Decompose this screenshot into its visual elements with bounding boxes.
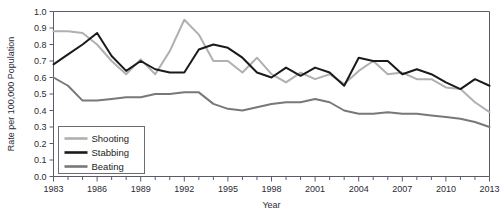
x-axis-ticks: 1983198619891992199519982001200420072010…: [43, 177, 499, 194]
y-axis-ticks: 0.00.10.20.30.40.50.60.70.80.91.0: [34, 7, 54, 182]
data-series-group: [54, 20, 490, 127]
y-tick-label: 0.0: [34, 172, 47, 182]
x-axis-title: Year: [262, 200, 280, 210]
legend-label-beating: Beating: [92, 161, 124, 172]
x-tick-label: 1989: [131, 184, 151, 194]
y-tick-label: 0.2: [34, 139, 47, 149]
y-tick-label: 0.7: [34, 56, 47, 66]
line-chart: 0.00.10.20.30.40.50.60.70.80.91.0 198319…: [0, 0, 503, 216]
series-line-stabbing: [54, 33, 490, 89]
x-tick-label: 1992: [174, 184, 194, 194]
x-tick-label: 2001: [305, 184, 325, 194]
x-tick-label: 2007: [392, 184, 412, 194]
y-tick-label: 0.1: [34, 155, 47, 165]
legend-label-shooting: Shooting: [92, 133, 130, 144]
y-tick-label: 0.8: [34, 40, 47, 50]
y-axis-title: Rate per 100,000 Population: [6, 37, 16, 152]
x-tick-label: 2004: [349, 184, 369, 194]
x-tick-label: 1986: [87, 184, 107, 194]
legend-label-stabbing: Stabbing: [92, 147, 130, 158]
x-tick-label: 1998: [261, 184, 281, 194]
x-tick-label: 2013: [479, 184, 499, 194]
series-line-beating: [54, 78, 490, 128]
y-tick-label: 0.9: [34, 23, 47, 33]
x-tick-label: 1983: [43, 184, 63, 194]
y-tick-label: 0.3: [34, 122, 47, 132]
y-tick-label: 0.4: [34, 106, 47, 116]
x-tick-label: 2010: [436, 184, 456, 194]
y-tick-label: 0.6: [34, 73, 47, 83]
x-tick-label: 1995: [218, 184, 238, 194]
chart-legend: ShootingStabbingBeating: [59, 127, 145, 174]
y-tick-label: 1.0: [34, 7, 47, 17]
chart-container: 0.00.10.20.30.40.50.60.70.80.91.0 198319…: [0, 0, 503, 216]
y-tick-label: 0.5: [34, 89, 47, 99]
